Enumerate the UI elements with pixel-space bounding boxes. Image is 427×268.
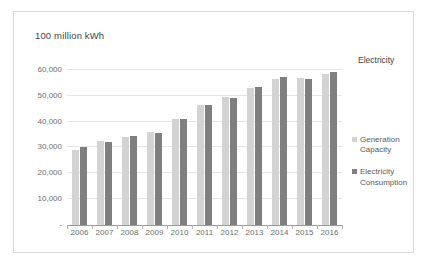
bar-group[interactable] xyxy=(267,57,292,225)
bar-group[interactable] xyxy=(192,57,217,225)
x-axis-tick-label: 2015 xyxy=(296,229,314,237)
y-axis-tick-label: - xyxy=(59,221,62,229)
chart-legend: Generation Capacity Electricity Consumpt… xyxy=(352,135,422,200)
bar-electricity-consumption[interactable] xyxy=(180,119,187,225)
bar-generation-capacity[interactable] xyxy=(272,79,279,225)
bar-electricity-consumption[interactable] xyxy=(155,133,162,225)
bar-electricity-consumption[interactable] xyxy=(205,105,212,225)
y-axis-tick-label: 30,000 xyxy=(38,143,62,151)
legend-label-electricity-consumption: Electricity Consumption xyxy=(360,167,422,187)
bar-generation-capacity[interactable] xyxy=(247,88,254,226)
x-axis-tick-label: 2013 xyxy=(246,229,264,237)
bar-group[interactable] xyxy=(67,57,92,225)
bar-electricity-consumption[interactable] xyxy=(255,87,262,225)
bar-generation-capacity[interactable] xyxy=(172,119,179,225)
bar-generation-capacity[interactable] xyxy=(197,105,204,225)
bar-electricity-consumption[interactable] xyxy=(280,77,287,225)
legend-item-generation-capacity[interactable]: Generation Capacity xyxy=(352,135,422,155)
bar-electricity-consumption[interactable] xyxy=(105,142,112,225)
x-axis-line xyxy=(67,225,342,226)
x-axis-tick-label: 2009 xyxy=(146,229,164,237)
bar-group[interactable] xyxy=(142,57,167,225)
bar-generation-capacity[interactable] xyxy=(297,78,304,225)
legend-swatch-icon-generation-capacity xyxy=(352,137,357,142)
chart-annotation-electricity: Electricity xyxy=(358,55,394,65)
bar-generation-capacity[interactable] xyxy=(97,141,104,225)
legend-item-electricity-consumption[interactable]: Electricity Consumption xyxy=(352,167,422,187)
x-axis-tick-label: 2008 xyxy=(121,229,139,237)
chart-frame: 100 million kWh -10,00020,00030,00040,00… xyxy=(13,11,414,253)
legend-swatch-icon-electricity-consumption xyxy=(352,169,357,174)
bar-group[interactable] xyxy=(317,57,342,225)
x-axis-labels: 2006200720082009201020112012201320142015… xyxy=(67,229,342,243)
y-axis-tick-label: 60,000 xyxy=(38,66,62,74)
x-axis-tick xyxy=(342,225,343,229)
bar-electricity-consumption[interactable] xyxy=(130,136,137,225)
bar-electricity-consumption[interactable] xyxy=(330,72,337,225)
y-axis-tick-label: 20,000 xyxy=(38,169,62,177)
x-axis-tick-label: 2006 xyxy=(71,229,89,237)
x-axis-tick-label: 2012 xyxy=(221,229,239,237)
bar-group[interactable] xyxy=(242,57,267,225)
legend-label-generation-capacity: Generation Capacity xyxy=(360,135,422,155)
x-axis-tick-label: 2016 xyxy=(321,229,339,237)
bar-group[interactable] xyxy=(117,57,142,225)
y-axis-tick-label: 40,000 xyxy=(38,118,62,126)
bar-electricity-consumption[interactable] xyxy=(305,79,312,225)
x-axis-tick-label: 2011 xyxy=(196,229,213,237)
bar-generation-capacity[interactable] xyxy=(322,74,329,225)
plot-area xyxy=(67,57,342,225)
x-axis-tick-label: 2010 xyxy=(171,229,189,237)
chart-axis-unit-title: 100 million kWh xyxy=(35,30,104,41)
x-axis-tick-label: 2014 xyxy=(271,229,289,237)
bar-generation-capacity[interactable] xyxy=(72,150,79,225)
bar-generation-capacity[interactable] xyxy=(122,137,129,225)
bar-group[interactable] xyxy=(217,57,242,225)
y-axis-labels: -10,00020,00030,00040,00050,00060,000 xyxy=(28,57,62,225)
bar-group[interactable] xyxy=(92,57,117,225)
bar-group[interactable] xyxy=(167,57,192,225)
x-axis-tick-label: 2007 xyxy=(96,229,114,237)
bar-generation-capacity[interactable] xyxy=(222,97,229,225)
bar-electricity-consumption[interactable] xyxy=(230,98,237,225)
y-axis-tick-label: 10,000 xyxy=(38,195,62,203)
bar-electricity-consumption[interactable] xyxy=(80,147,87,225)
bar-generation-capacity[interactable] xyxy=(147,132,154,225)
bar-group[interactable] xyxy=(292,57,317,225)
y-axis-tick-label: 50,000 xyxy=(38,92,62,100)
